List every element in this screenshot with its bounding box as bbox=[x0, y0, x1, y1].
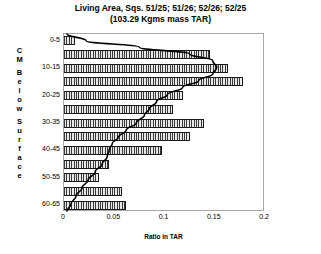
y-axis-title-letter: e bbox=[13, 171, 26, 180]
y-tick-20-25: 20-25 bbox=[42, 91, 60, 99]
y-axis-title-letter: w bbox=[13, 104, 26, 113]
y-axis-title-letter: a bbox=[13, 153, 26, 162]
y-tick-30-35: 30-35 bbox=[42, 118, 60, 126]
x-axis-title: Ratio in TAR bbox=[63, 233, 264, 240]
y-tick-40-45: 40-45 bbox=[42, 145, 60, 153]
x-tick-0.2: 0.2 bbox=[259, 213, 269, 221]
overlay-curve bbox=[64, 34, 265, 212]
x-tick-0.05: 0.05 bbox=[106, 213, 120, 221]
y-tick-50-55: 50-55 bbox=[42, 173, 60, 181]
chart-title: Living Area, Sqs. 51/25; 51/26; 52/26; 5… bbox=[0, 3, 321, 25]
y-axis-title-letter: r bbox=[13, 135, 26, 144]
y-axis-title-letter: l bbox=[13, 86, 26, 95]
y-axis-title-letter: f bbox=[13, 144, 26, 153]
y-tick-10-15: 10-15 bbox=[42, 63, 60, 71]
x-axis-tick-labels: 00.050.10.150.2 bbox=[63, 213, 264, 225]
chart-title-line-2: (103.29 Kgms mass TAR) bbox=[0, 14, 321, 25]
x-tick-0.1: 0.1 bbox=[159, 213, 169, 221]
y-axis-title-letter: o bbox=[13, 95, 26, 104]
y-axis-title-letter: B bbox=[13, 68, 26, 77]
plot-area bbox=[63, 33, 264, 211]
chart-title-line-1: Living Area, Sqs. 51/25; 51/26; 52/26; 5… bbox=[0, 3, 321, 14]
y-axis-title-letter: c bbox=[13, 162, 26, 171]
x-tick-0: 0 bbox=[61, 213, 65, 221]
y-axis-title: CMBelowSurface bbox=[13, 46, 26, 180]
y-axis-title-letter: u bbox=[13, 126, 26, 135]
y-tick-0-5: 0-5 bbox=[50, 36, 60, 44]
y-axis-title-letter: M bbox=[13, 55, 26, 64]
y-tick-60-65: 60-65 bbox=[42, 200, 60, 208]
y-axis-title-letter: e bbox=[13, 77, 26, 86]
y-axis-tick-labels: 0-510-1520-2530-3540-4550-5560-65 bbox=[26, 33, 62, 211]
x-tick-0.15: 0.15 bbox=[207, 213, 221, 221]
chart-container: Living Area, Sqs. 51/25; 51/26; 52/26; 5… bbox=[0, 0, 321, 254]
y-axis-title-letter: S bbox=[13, 117, 26, 126]
y-axis-title-letter: C bbox=[13, 46, 26, 55]
